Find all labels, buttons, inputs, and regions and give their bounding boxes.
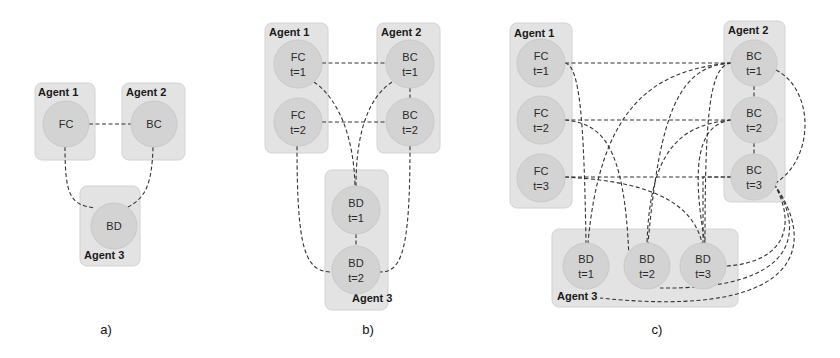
panel-label-b: b)	[362, 322, 374, 337]
node-circle	[332, 246, 380, 294]
agent-label: Agent 2	[381, 26, 421, 38]
node-timestep: t=1	[290, 66, 306, 78]
node-circle	[517, 96, 565, 144]
node-variable: FC	[291, 51, 306, 63]
agent-label: Agent 2	[126, 86, 166, 98]
node-circle	[731, 97, 777, 143]
agent-label: Agent 3	[84, 249, 124, 261]
node-b-bd2: BDt=2	[332, 246, 380, 294]
node-circle	[731, 40, 777, 86]
node-variable: BD	[348, 197, 363, 209]
dashed-edge	[647, 120, 731, 243]
node-circle	[274, 40, 322, 88]
panel-label-c: c)	[652, 322, 663, 337]
node-circle	[517, 39, 565, 87]
node-timestep: t=1	[348, 212, 364, 224]
node-c-bd1: BDt=1	[563, 243, 609, 289]
node-circle	[332, 186, 380, 234]
node-timestep: t=2	[533, 122, 549, 134]
node-c-bc2: BCt=2	[731, 97, 777, 143]
node-c-bd2: BDt=2	[624, 243, 670, 289]
node-timestep: t=1	[746, 65, 762, 77]
node-variable: BC	[746, 50, 761, 62]
node-timestep: t=1	[578, 268, 594, 280]
node-b-bc1: BCt=1	[386, 40, 434, 88]
node-timestep: t=2	[290, 124, 306, 136]
node-timestep: t=2	[746, 122, 762, 134]
panel-label-a: a)	[100, 322, 112, 337]
node-circle	[731, 154, 777, 200]
panel-labels: a)b)c)	[100, 322, 662, 337]
node-variable: BC	[402, 51, 417, 63]
node-b-fc2: FCt=2	[274, 98, 322, 146]
node-variable: FC	[534, 50, 549, 62]
node-circle	[274, 98, 322, 146]
node-timestep: t=2	[348, 272, 364, 284]
node-variable: BD	[695, 253, 710, 265]
node-circle	[386, 40, 434, 88]
node-timestep: t=3	[746, 179, 762, 191]
node-timestep: t=1	[402, 66, 418, 78]
agent-label: Agent 1	[269, 26, 309, 38]
node-variable: FC	[59, 118, 74, 130]
node-timestep: t=2	[639, 268, 655, 280]
node-circle	[680, 243, 726, 289]
node-c-fc1: FCt=1	[517, 39, 565, 87]
agent-label: Agent 1	[514, 27, 554, 39]
node-c-fc2: FCt=2	[517, 96, 565, 144]
node-circle	[563, 243, 609, 289]
node-circle	[517, 154, 565, 202]
node-variable: BC	[402, 109, 417, 121]
node-variable: BC	[146, 118, 161, 130]
node-c-bc1: BCt=1	[731, 40, 777, 86]
node-variable: FC	[534, 107, 549, 119]
multi-agent-diagram: Agent 1Agent 2Agent 3Agent 1Agent 2Agent…	[0, 0, 840, 358]
node-variable: FC	[291, 109, 306, 121]
node-a-bc: BC	[131, 101, 177, 147]
node-b-bc2: BCt=2	[386, 98, 434, 146]
node-variable: BD	[348, 257, 363, 269]
node-variable: BD	[106, 220, 121, 232]
node-b-bd1: BDt=1	[332, 186, 380, 234]
node-a-fc: FC	[43, 101, 89, 147]
node-timestep: t=1	[533, 65, 549, 77]
node-variable: BC	[746, 107, 761, 119]
dashed-edge	[588, 63, 731, 243]
node-timestep: t=2	[402, 124, 418, 136]
node-circle	[624, 243, 670, 289]
node-c-bc3: BCt=3	[731, 154, 777, 200]
node-circle	[386, 98, 434, 146]
node-b-fc1: FCt=1	[274, 40, 322, 88]
node-timestep: t=3	[695, 268, 711, 280]
node-c-fc3: FCt=3	[517, 154, 565, 202]
dashed-edge	[648, 63, 731, 243]
node-variable: BD	[639, 253, 654, 265]
agent-label: Agent 2	[728, 24, 768, 36]
node-variable: BD	[578, 253, 593, 265]
node-variable: BC	[746, 164, 761, 176]
node-c-bd3: BDt=3	[680, 243, 726, 289]
node-variable: FC	[534, 165, 549, 177]
node-timestep: t=3	[533, 180, 549, 192]
agent-label: Agent 1	[38, 86, 78, 98]
node-a-bd: BD	[91, 203, 137, 249]
agent-label: Agent 3	[557, 290, 597, 302]
